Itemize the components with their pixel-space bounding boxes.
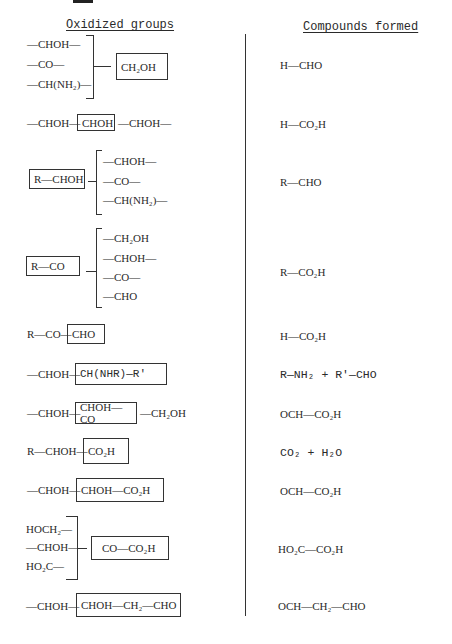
group-item: —CHOH— — [27, 38, 80, 51]
header-oxidized-groups: Oxidized groups — [66, 18, 174, 32]
group-item: —CHOH— — [26, 541, 79, 554]
boxed-group: R—CO — [26, 256, 80, 276]
row-8-formed: CO₂ + H₂O — [280, 446, 342, 459]
boxed-group: CHOH—CO₂H — [76, 478, 164, 502]
bracket-left — [96, 150, 97, 215]
boxed-group: CO—CO₂H — [91, 536, 169, 560]
bracket-cap — [96, 150, 102, 151]
bracket-cap — [66, 516, 78, 517]
boxed-group: CHOH — [77, 114, 115, 131]
group-item: —CH(NH₂)— — [27, 78, 91, 91]
group-prefix: —CHOH— — [27, 117, 80, 130]
bracket-cap — [86, 98, 94, 99]
bracket-connector — [77, 548, 87, 549]
bracket-connector — [93, 66, 111, 67]
boxed-group: CHOH—CO — [75, 402, 137, 424]
bracket-left — [96, 228, 97, 308]
boxed-group: R—CHOH — [29, 169, 85, 189]
boxed-group: CO₂H — [83, 438, 129, 464]
bracket-cap — [96, 214, 102, 215]
group-prefix: —CHOH— — [26, 600, 79, 613]
row-2-formed: H—CO₂H — [280, 118, 326, 131]
row-5-formed: H—CO₂H — [280, 330, 326, 343]
group-item: —CHOH— — [103, 155, 156, 168]
group-item: HOCH₂— — [26, 523, 72, 536]
group-item: —CH(NH₂)— — [103, 194, 167, 207]
column-divider — [245, 34, 246, 616]
row-6-formed: R—NH₂ + R'—CHO — [280, 368, 377, 381]
page-fragment-mark — [73, 0, 93, 3]
row-3-formed: R—CHO — [280, 176, 322, 189]
group-prefix: R—CO— — [27, 328, 72, 341]
bracket-cap — [96, 307, 102, 308]
row-11-formed: OCH—CH₂—CHO — [278, 600, 366, 613]
group-prefix: —CHOH— — [27, 407, 80, 420]
group-item: —CH₂OH — [103, 232, 149, 245]
bracket-connector — [86, 271, 96, 272]
bracket-cap — [86, 35, 94, 36]
boxed-group: CHOH—CH₂—CHO — [76, 593, 181, 617]
header-compounds-formed: Compounds formed — [303, 20, 418, 34]
group-suffix: —CHOH— — [118, 117, 171, 130]
group-prefix: —CHOH— — [27, 484, 80, 497]
group-item: —CO— — [103, 271, 140, 284]
boxed-group: CH(NHR)—R' — [75, 363, 167, 385]
group-prefix: —CHOH— — [27, 368, 80, 381]
row-4-formed: R—CO₂H — [280, 266, 325, 279]
row-7-formed: OCH—CO₂H — [280, 408, 341, 421]
row-1-formed: H—CHO — [280, 59, 322, 72]
group-item: —CHO — [103, 290, 137, 303]
bracket-cap — [66, 579, 78, 580]
boxed-group: CH₂OH — [116, 53, 168, 80]
group-item: —CHOH— — [103, 252, 156, 265]
group-prefix: R—CHOH— — [27, 445, 88, 458]
group-item: —CO— — [103, 175, 140, 188]
bracket-connector — [88, 181, 96, 182]
group-suffix: —CH₂OH — [140, 407, 186, 420]
row-9-formed: OCH—CO₂H — [280, 485, 341, 498]
boxed-group: CHO — [67, 324, 105, 344]
bracket-cap — [96, 228, 102, 229]
group-item: HO₂C— — [26, 560, 64, 573]
row-10-formed: HO₂C—CO₂H — [278, 543, 343, 556]
group-item: —CO— — [27, 58, 64, 71]
